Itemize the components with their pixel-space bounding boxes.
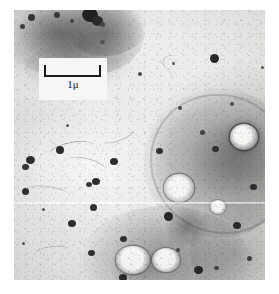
micrograph-figure: 1μ <box>0 0 279 294</box>
scale-bar: 1μ <box>39 58 107 100</box>
scale-bar-label: 1μ <box>39 78 107 91</box>
vignette-layer <box>14 10 265 280</box>
micrograph-plate <box>14 10 265 280</box>
scale-bar-bracket <box>44 65 101 77</box>
